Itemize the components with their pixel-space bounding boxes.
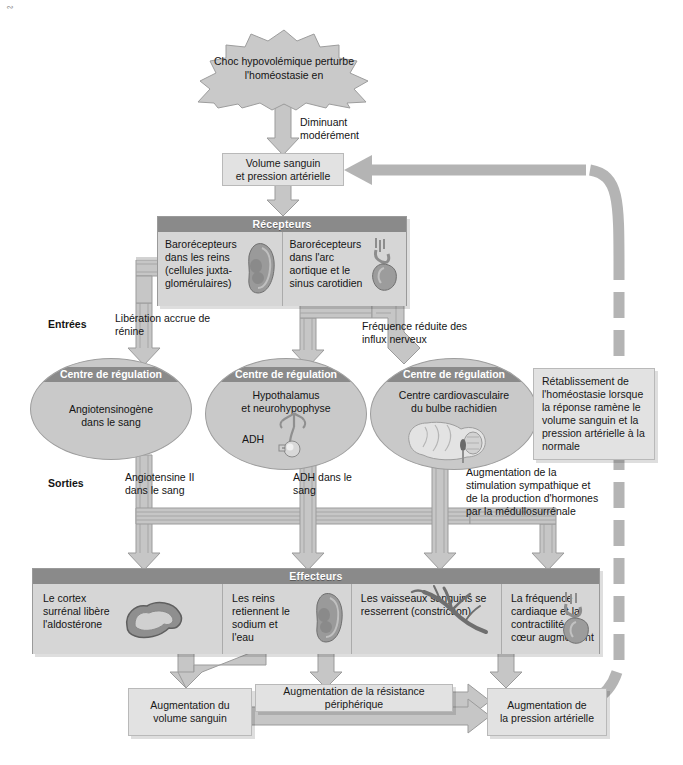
control-center-1-header: Centre de régulation — [31, 367, 191, 382]
diagram-canvas: ∾ .af{fill:#c6c6c6;stroke:#9b9b9b;stroke… — [0, 0, 683, 765]
adrenal-cortex-icon — [121, 596, 191, 646]
effector-cell-vessels: Les vaisseaux sanguins se resserrent (co… — [351, 584, 501, 654]
effector-cell-kidney: Les reins retiennent le sodium et l'eau — [222, 584, 351, 654]
stimulus-text: Choc hypovolémique perturbe l'homéostasi… — [206, 40, 362, 96]
stimulus-arrow-label: Diminuant modérément — [300, 116, 410, 142]
arrow-variable-to-receptors — [267, 185, 299, 216]
effectors-panel: Effecteurs Le cortex surrénal libère l'a… — [32, 568, 600, 654]
effector-adrenal-label: Le cortex surrénal libère l'aldostérone — [43, 592, 123, 631]
kidney-icon — [242, 242, 276, 296]
effector-cell-adrenal: Le cortex surrénal libère l'aldostérone — [33, 584, 222, 654]
control-center-1-text: Angiotensinogène dans le sang — [31, 403, 191, 429]
restore-homeostasis-box: Rétablissement de l'homéostasie lorsque … — [533, 368, 655, 460]
receptor-cell-kidney: Barorécepteurs dans les reins (cellules … — [158, 232, 282, 306]
receptor-aorta-label: Barorécepteurs dans l'arc aortique et le… — [290, 238, 372, 290]
receptors-panel: Récepteurs Barorécepteurs dans les reins… — [157, 216, 407, 306]
label-adh: ADH dans le sang — [293, 471, 363, 497]
label-sympathetic: Augmentation de la stimulation sympathiq… — [466, 466, 601, 518]
control-center-2-header: Centre de régulation — [206, 367, 366, 382]
kidney-icon — [311, 592, 345, 644]
pituitary-icon — [268, 411, 320, 463]
control-center-angiotensinogen: Centre de régulation Angiotensinogène da… — [30, 358, 192, 460]
blood-vessel-icon — [404, 584, 490, 640]
result-box-pressure: Augmentation de la pression artérielle — [487, 688, 607, 736]
control-center-3-header: Centre de régulation — [371, 367, 537, 382]
label-outputs: Sorties — [48, 477, 84, 490]
heart-icon — [555, 588, 595, 648]
brainstem-icon — [401, 417, 505, 465]
effector-cell-heart: La fréquence cardiaque et la contractili… — [501, 584, 599, 654]
result-box-volume: Augmentation du volume sanguin — [128, 688, 252, 736]
control-center-hypothalamus: Centre de régulation Hypothalamus et neu… — [205, 358, 367, 470]
arrow-effector3-to-result2 — [310, 653, 342, 688]
control-center-cardiovascular: Centre de régulation Centre cardiovascul… — [370, 358, 538, 470]
control-center-3-text: Centre cardiovasculaire du bulbe rachidi… — [371, 389, 537, 415]
result-box-resistance: Augmentation de la résistance périphériq… — [255, 684, 453, 712]
arrow-effector4-to-result3 — [490, 653, 522, 688]
label-nerve-impulses: Fréquence réduite des influx nerveux — [362, 320, 482, 346]
effectors-header: Effecteurs — [33, 569, 599, 584]
receptor-kidney-label: Barorécepteurs dans les reins (cellules … — [165, 238, 245, 290]
variable-box: Volume sanguin et pression artérielle — [222, 153, 344, 186]
label-angiotensin: Angiotensine II dans le sang — [125, 471, 220, 497]
effector-kidney-label: Les reins retiennent le sodium et l'eau — [232, 592, 294, 644]
arrow-stimulus-to-variable — [267, 104, 299, 155]
control-center-2-sub-label: ADH — [242, 433, 264, 446]
label-inputs: Entrées — [48, 318, 87, 331]
receptors-header: Récepteurs — [158, 217, 406, 232]
arrow-receptors-to-center2 — [292, 300, 372, 367]
receptor-cell-aorta: Barorécepteurs dans l'arc aortique et le… — [282, 232, 407, 306]
label-renin: Libération accrue de rénine — [115, 312, 215, 338]
heart-aorta-icon — [364, 236, 402, 296]
